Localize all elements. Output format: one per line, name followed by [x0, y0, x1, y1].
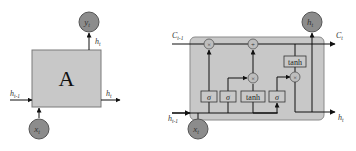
candidate-gate-label: tanh: [246, 93, 260, 102]
lstm-diagram: Ct-1 Ct ht-1 xt σ σ tanh × σ: [168, 12, 344, 139]
rnn-hidden-in-label: ht-1: [10, 89, 20, 99]
rnn-diagram: A yt ht ht-1 ht xt: [10, 12, 120, 139]
rnn-block-label: A: [59, 66, 75, 91]
output-tanh-label: tanh: [288, 58, 302, 67]
cell-state-in-label: Ct-1: [172, 31, 184, 41]
cell-state-out-label: Ct: [336, 31, 343, 41]
output-multiply-symbol: ×: [293, 74, 297, 81]
rnn-hidden-out-label: ht: [106, 89, 112, 99]
diagram-canvas: A yt ht ht-1 ht xt Ct-1 Ct ht-1 xt: [0, 0, 356, 151]
rnn-output-edge-label: ht: [95, 37, 101, 47]
input-multiply-symbol: ×: [251, 75, 255, 82]
hidden-in-label: ht-1: [168, 114, 178, 124]
forget-multiply-symbol: ×: [207, 41, 211, 48]
hidden-out-label: ht: [338, 113, 344, 123]
cell-add-symbol: +: [251, 41, 255, 49]
